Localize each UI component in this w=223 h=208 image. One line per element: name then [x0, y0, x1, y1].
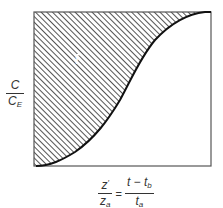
x-right-num-main: t − t	[127, 175, 147, 189]
x-right-num-sub: b	[147, 181, 151, 190]
x-right-den: ta	[133, 195, 145, 208]
x-axis-label: z′ za = t − tb ta	[98, 176, 154, 208]
x-right-num: t − tb	[125, 176, 154, 192]
x-left-num: z′	[99, 176, 111, 192]
region-label-t-bar: t̄	[75, 53, 79, 67]
x-left-num-sup: ′	[107, 178, 109, 187]
y-den-sub: E	[17, 100, 22, 109]
x-label-left-fraction: z′ za	[98, 176, 112, 208]
x-left-den: za	[98, 195, 112, 208]
y-den-main: C	[8, 94, 17, 108]
y-axis-label: C CE	[6, 79, 24, 111]
x-right-den-sub: a	[139, 200, 143, 208]
x-label-right-fraction: t − tb ta	[125, 176, 154, 208]
y-label-numerator: C	[9, 79, 22, 92]
fraction-bar	[125, 193, 154, 194]
x-left-den-sub: a	[106, 200, 110, 208]
hatched-area-above-curve	[34, 12, 211, 166]
y-label-denominator: CE	[6, 95, 24, 111]
equals-sign: =	[115, 188, 121, 200]
